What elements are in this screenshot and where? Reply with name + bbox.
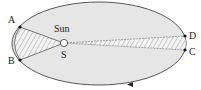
point-a	[18, 25, 21, 28]
label-a: A	[8, 15, 15, 25]
sun-icon	[60, 39, 67, 46]
point-d	[183, 34, 186, 37]
point-c	[183, 48, 186, 51]
label-c: C	[189, 47, 196, 57]
label-d: D	[189, 31, 196, 41]
label-s: S	[61, 50, 67, 60]
label-sun: Sun	[54, 24, 70, 34]
label-b: B	[8, 56, 15, 66]
orbit-diagram	[0, 0, 201, 90]
point-b	[18, 58, 21, 61]
